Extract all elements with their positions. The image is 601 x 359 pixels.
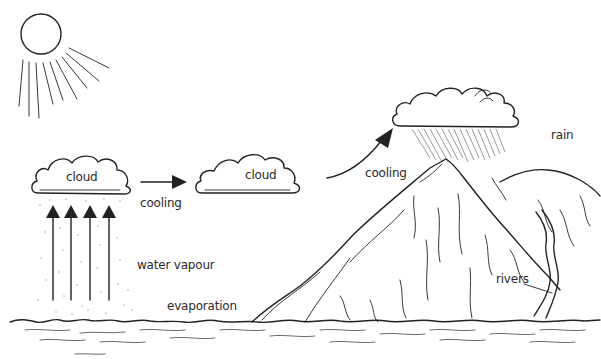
sea-waves-icon <box>10 320 600 355</box>
cooling-label-1: cooling <box>140 197 182 209</box>
water-vapour-label: water vapour <box>137 259 215 271</box>
rivers-icon <box>534 210 558 318</box>
cooling-label-2: cooling <box>365 167 407 179</box>
vapour-arrows <box>46 205 116 300</box>
rivers-label: rivers <box>496 273 529 285</box>
evaporation-label: evaporation <box>167 300 237 312</box>
arrow-cloud-to-cloud <box>141 175 187 189</box>
rain-cloud-icon <box>393 88 519 162</box>
rain-label: rain <box>551 129 573 141</box>
sun-icon <box>19 14 109 118</box>
mountain-icon <box>252 159 600 322</box>
cloud-middle-label: cloud <box>245 169 277 181</box>
cloud-left-label: cloud <box>66 171 98 183</box>
